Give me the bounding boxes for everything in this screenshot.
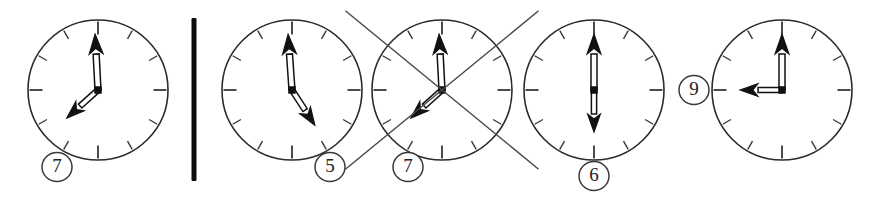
minute-hand-shaft: [591, 54, 597, 90]
vertical-bar-icon: [192, 18, 197, 181]
clock-face-5[interactable]: [712, 20, 852, 160]
divider-bar: [192, 18, 197, 181]
clock-row-figure: 75769: [0, 0, 880, 203]
badge-5[interactable]: 9: [679, 76, 709, 105]
clock-face-2[interactable]: [222, 20, 362, 160]
badge-1[interactable]: 7: [42, 153, 72, 182]
minute-hand-shaft: [779, 54, 785, 90]
clock-face-4[interactable]: [524, 20, 664, 160]
clock-layer: [28, 11, 852, 168]
figure-canvas: 75769: [0, 0, 880, 203]
minute-hand-shaft: [437, 54, 445, 90]
center-hub: [95, 87, 101, 93]
badge-label: 7: [403, 155, 413, 176]
badge-label: 9: [689, 78, 699, 99]
center-hub: [289, 87, 295, 93]
badge-4[interactable]: 6: [579, 162, 609, 191]
minute-hand-shaft: [93, 54, 101, 90]
badge-label: 7: [52, 155, 62, 176]
badge-2[interactable]: 5: [315, 153, 345, 182]
badge-label: 6: [589, 164, 599, 185]
badge-label: 5: [325, 155, 335, 176]
clock-face-3[interactable]: [346, 11, 538, 168]
divider-layer: [192, 18, 197, 181]
center-hub: [591, 87, 597, 93]
center-hub: [779, 87, 785, 93]
badge-3[interactable]: 7: [393, 153, 423, 182]
clock-face-1[interactable]: [28, 20, 168, 160]
